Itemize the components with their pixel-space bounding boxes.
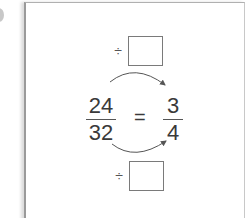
bottom-answer-box[interactable] <box>129 161 164 191</box>
left-denominator: 32 <box>89 121 113 145</box>
bottom-arrow-icon <box>112 141 166 152</box>
right-numerator: 3 <box>167 94 179 118</box>
top-arrow-icon <box>110 73 165 85</box>
right-denominator: 4 <box>167 121 179 145</box>
left-numerator: 24 <box>89 94 113 118</box>
right-fraction: 3 4 <box>163 94 183 145</box>
bottom-division-operation: ÷ <box>111 161 164 191</box>
divide-icon: ÷ <box>111 168 127 184</box>
left-fraction: 24 32 <box>86 94 116 145</box>
equals-sign: = <box>134 106 146 129</box>
